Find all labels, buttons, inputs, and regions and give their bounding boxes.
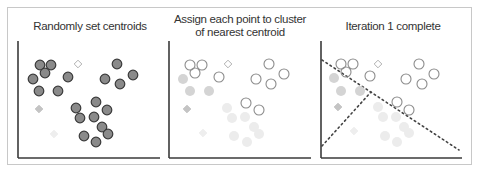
light-cluster-point	[229, 131, 239, 141]
light-cluster-point	[404, 128, 414, 138]
centroid-outline-diamond-icon	[74, 60, 82, 68]
centroid-outline-diamond-icon	[224, 60, 232, 68]
outline-cluster-point	[404, 105, 414, 115]
light-cluster-point	[254, 129, 264, 139]
unassigned-data-point	[91, 137, 101, 147]
light-cluster-point	[373, 102, 383, 112]
outline-cluster-point	[241, 98, 251, 108]
centroid-light-diamond-icon	[50, 130, 58, 138]
outline-cluster-point	[348, 59, 358, 69]
outline-cluster-point	[264, 59, 274, 69]
unassigned-data-point	[53, 86, 63, 96]
centroid-gray-diamond-icon	[334, 103, 342, 111]
unassigned-data-point	[71, 103, 81, 113]
centroid-light-diamond-icon	[199, 129, 207, 137]
gray-cluster-point	[204, 86, 214, 96]
unassigned-data-point	[79, 131, 89, 141]
light-cluster-point	[392, 137, 402, 147]
light-cluster-point	[242, 137, 252, 147]
unassigned-data-point	[75, 113, 85, 123]
centroid-light-diamond-icon	[350, 127, 358, 135]
gray-cluster-point	[355, 86, 365, 96]
unassigned-data-point	[103, 129, 113, 139]
unassigned-data-point	[89, 112, 99, 122]
cluster-boundary-line	[322, 92, 371, 146]
outline-cluster-point	[266, 79, 276, 89]
unassigned-data-point	[40, 68, 50, 78]
outline-cluster-point	[251, 74, 261, 84]
light-cluster-point	[378, 112, 388, 122]
centroid-gray-diamond-icon	[183, 105, 191, 113]
unassigned-data-point	[128, 70, 138, 80]
gray-cluster-point	[336, 86, 346, 96]
unassigned-data-point	[34, 86, 44, 96]
centroid-outline-diamond-icon	[374, 60, 382, 68]
outline-cluster-point	[417, 79, 427, 89]
gray-cluster-point	[178, 74, 188, 84]
outline-cluster-point	[401, 74, 411, 84]
outline-cluster-point	[197, 60, 207, 70]
unassigned-data-point	[115, 79, 125, 89]
outline-cluster-point	[365, 71, 375, 81]
unassigned-data-point	[112, 59, 122, 69]
light-cluster-point	[222, 103, 232, 113]
outline-cluster-point	[190, 68, 200, 78]
unassigned-data-point	[100, 74, 110, 84]
gray-cluster-point	[329, 73, 339, 83]
outline-cluster-point	[429, 69, 439, 79]
light-cluster-point	[380, 131, 390, 141]
centroid-gray-diamond-icon	[35, 105, 43, 113]
unassigned-data-point	[63, 72, 73, 82]
outline-cluster-point	[414, 59, 424, 69]
unassigned-data-point	[28, 74, 38, 84]
unassigned-data-point	[102, 105, 112, 115]
light-cluster-point	[227, 113, 237, 123]
kmeans-diagram	[0, 0, 479, 175]
gray-cluster-point	[185, 86, 195, 96]
light-cluster-point	[240, 112, 250, 122]
outline-cluster-point	[214, 72, 224, 82]
light-cluster-point	[391, 112, 401, 122]
outline-cluster-point	[392, 97, 402, 107]
outline-cluster-point	[279, 69, 289, 79]
unassigned-data-point	[91, 97, 101, 107]
outline-cluster-point	[254, 105, 264, 115]
